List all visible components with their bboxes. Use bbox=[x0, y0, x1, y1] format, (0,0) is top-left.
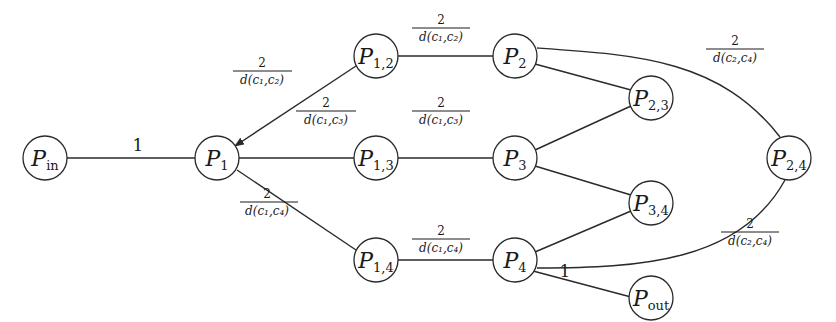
edge-label-p14-p4: 2 d(c₁,c₄) bbox=[412, 224, 470, 255]
svg-text:d(c₂,c₄): d(c₂,c₄) bbox=[728, 234, 772, 248]
node-p1: P1 bbox=[195, 136, 239, 180]
edge-label-p2-p24: 2 d(c₂,c₄) bbox=[706, 34, 764, 65]
svg-text:d(c₁,c₂): d(c₁,c₂) bbox=[419, 30, 463, 44]
svg-text:d(c₁,c₄): d(c₁,c₄) bbox=[419, 241, 463, 255]
node-p3: P3 bbox=[493, 136, 537, 180]
edge-label-p4-p24: 2 d(c₂,c₄) bbox=[721, 217, 779, 248]
svg-text:2: 2 bbox=[263, 187, 271, 201]
node-p24: P2,4 bbox=[767, 136, 811, 180]
svg-text:d(c₁,c₃): d(c₁,c₃) bbox=[419, 113, 463, 127]
edge-label-p12-p2: 2 d(c₁,c₂) bbox=[412, 13, 470, 44]
node-p34: P3,4 bbox=[629, 181, 673, 225]
svg-text:2: 2 bbox=[731, 34, 739, 48]
edge-label-in-p1: 1 bbox=[133, 135, 144, 155]
svg-text:2: 2 bbox=[322, 96, 330, 110]
svg-text:d(c₁,c₂): d(c₁,c₂) bbox=[240, 73, 284, 87]
svg-text:2: 2 bbox=[437, 96, 445, 110]
edge-p4-p34 bbox=[535, 211, 631, 252]
edge-p2-p23 bbox=[535, 64, 631, 90]
svg-text:d(c₂,c₄): d(c₂,c₄) bbox=[713, 51, 757, 65]
svg-text:2: 2 bbox=[437, 13, 445, 27]
edge-label-p1-p13: 2 d(c₁,c₃) bbox=[296, 96, 356, 127]
edge-label-p4-pout: 1 bbox=[560, 261, 571, 281]
node-p2: P2 bbox=[493, 34, 537, 78]
svg-text:d(c₁,c₃): d(c₁,c₃) bbox=[304, 113, 348, 127]
graph-diagram: 1 2 d(c₁,c₂) 2 d(c₁,c₃) 2 d(c₁,c₄) 2 d(c… bbox=[0, 0, 836, 322]
svg-text:2: 2 bbox=[746, 217, 754, 231]
node-p-in: Pin bbox=[23, 136, 67, 180]
edge-p4-pout bbox=[533, 271, 631, 297]
node-p-out: Pout bbox=[629, 276, 673, 320]
svg-text:2: 2 bbox=[258, 56, 266, 70]
edge-p3-p23 bbox=[535, 106, 631, 150]
node-p4: P4 bbox=[493, 238, 537, 282]
node-p12: P1,2 bbox=[354, 34, 398, 78]
node-p13: P1,3 bbox=[354, 136, 398, 180]
node-p23: P2,3 bbox=[629, 76, 673, 120]
svg-text:2: 2 bbox=[437, 224, 445, 238]
edge-label-p12-p1: 2 d(c₁,c₂) bbox=[233, 56, 292, 87]
edge-p3-p34 bbox=[535, 166, 631, 195]
node-p14: P1,4 bbox=[354, 238, 398, 282]
edge-label-p1-p14: 2 d(c₁,c₄) bbox=[240, 187, 298, 218]
svg-text:d(c₁,c₄): d(c₁,c₄) bbox=[245, 204, 289, 218]
edge-label-p13-p3: 2 d(c₁,c₃) bbox=[412, 96, 470, 127]
